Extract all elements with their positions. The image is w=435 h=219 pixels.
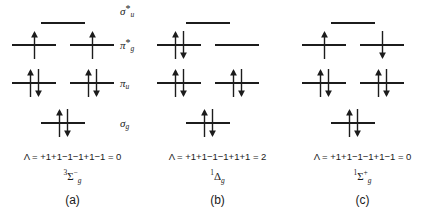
- orbital-slot-right: [215, 82, 259, 85]
- orbital-label-pi-g-star: π*g: [120, 38, 134, 53]
- orbital-slot-left: [302, 82, 346, 85]
- panel-c: Λ = +1+1−1−1+1−1 = 0 1Σ+g (c): [290, 0, 435, 219]
- orbital-row-pi-u: [145, 68, 290, 102]
- orbital-label-sigma-u-star: σ*u: [120, 4, 134, 19]
- electron-arrow-down: [63, 109, 72, 137]
- orbital-slot-left: [157, 44, 201, 47]
- orbital-slot-center: [186, 122, 230, 125]
- orbital-slot-center: [186, 22, 230, 25]
- orbital-slot-right: [215, 44, 259, 47]
- orbital-row-pi-u: [290, 68, 435, 102]
- orbital-slot-left: [157, 82, 201, 85]
- panel-caption: (b): [145, 193, 290, 207]
- orbital-label-sigma-g: σg: [120, 116, 129, 131]
- orbital-row-pi-g-star: [145, 30, 290, 64]
- electron-arrow-up: [88, 31, 97, 59]
- term-symbol: 1Σ+g: [290, 168, 435, 185]
- orbital-slot-center: [331, 22, 375, 25]
- panel-a: σ*u π*g πu σg Λ = +1+1−1−1+1−1 = 0 3Σ−g …: [0, 0, 145, 219]
- orbital-row-sigma-g: [290, 108, 435, 142]
- orbital-level-line: [41, 22, 85, 24]
- panel-caption: (a): [0, 193, 145, 207]
- electron-arrow-up: [30, 31, 39, 59]
- lambda-equation: Λ = +1+1−1−1+1−1 = 0: [0, 151, 145, 162]
- orbital-slot-right: [360, 82, 404, 85]
- orbital-level-line: [215, 44, 259, 46]
- orbital-slot-left: [302, 44, 346, 47]
- orbital-slot-center: [41, 122, 85, 125]
- lambda-equation: Λ = +1+1−1−1+1−1 = 0: [290, 151, 435, 162]
- electron-arrow-down: [208, 109, 217, 137]
- panel-b: Λ = +1+1−1−1+1+1 = 2 1Δg (b): [145, 0, 290, 219]
- molecular-orbital-diagram: σ*u π*g πu σg Λ = +1+1−1−1+1−1 = 0 3Σ−g …: [0, 0, 435, 219]
- orbital-label-pi-u: πu: [120, 76, 129, 91]
- electron-arrow-down: [237, 69, 246, 97]
- electron-arrow-up: [320, 31, 329, 59]
- orbital-slot-center: [331, 122, 375, 125]
- orbital-slot-center: [41, 22, 85, 25]
- electron-arrow-down: [179, 69, 188, 97]
- electron-arrow-down: [34, 69, 43, 97]
- orbital-row-pi-g-star: [290, 30, 435, 64]
- electron-arrow-down: [382, 69, 391, 97]
- term-symbol: 3Σ−g: [0, 168, 145, 185]
- orbital-row-sigma-g: [145, 108, 290, 142]
- panel-caption: (c): [290, 193, 435, 207]
- electron-arrow-down: [324, 69, 333, 97]
- lambda-equation: Λ = +1+1−1−1+1+1 = 2: [145, 151, 290, 162]
- term-symbol: 1Δg: [145, 168, 290, 185]
- electron-arrow-down: [378, 31, 387, 59]
- orbital-slot-left: [12, 44, 56, 47]
- electron-arrow-down: [92, 69, 101, 97]
- orbital-level-line: [186, 22, 230, 24]
- orbital-slot-left: [12, 82, 56, 85]
- orbital-slot-right: [360, 44, 404, 47]
- orbital-level-line: [331, 22, 375, 24]
- orbital-slot-right: [70, 82, 114, 85]
- electron-arrow-down: [353, 109, 362, 137]
- electron-arrow-down: [179, 31, 188, 59]
- orbital-slot-right: [70, 44, 114, 47]
